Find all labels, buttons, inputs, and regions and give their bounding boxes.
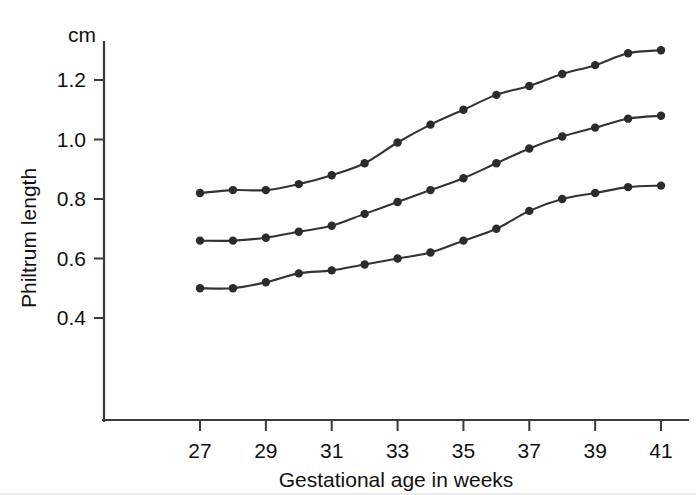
y-tick-label: 0.8 [57, 187, 86, 210]
y-tick-label: 1.2 [57, 68, 86, 91]
data-point-marker [393, 254, 401, 262]
data-point-marker [328, 171, 336, 179]
data-point-marker [525, 82, 533, 90]
x-axis-title: Gestational age in weeks [279, 468, 514, 491]
data-point-marker [459, 174, 467, 182]
data-point-marker [624, 183, 632, 191]
data-point-marker [229, 284, 237, 292]
data-point-marker [295, 228, 303, 236]
data-point-marker [426, 248, 434, 256]
data-point-marker [492, 159, 500, 167]
y-tick-label: 1.0 [57, 128, 86, 151]
data-point-marker [360, 159, 368, 167]
data-point-marker [558, 70, 566, 78]
x-tick-label: 31 [320, 439, 343, 462]
x-tick-label: 41 [649, 439, 672, 462]
data-point-marker [591, 123, 599, 131]
data-point-marker [262, 186, 270, 194]
data-point-marker [558, 195, 566, 203]
data-point-marker [426, 120, 434, 128]
data-point-marker [295, 269, 303, 277]
data-point-marker [459, 106, 467, 114]
data-point-marker [196, 189, 204, 197]
data-point-marker [262, 233, 270, 241]
y-axis-unit-label: cm [68, 23, 96, 46]
data-point-marker [492, 91, 500, 99]
data-point-marker [657, 46, 665, 54]
y-axis-title: Philtrum length [17, 168, 40, 308]
data-point-marker [196, 284, 204, 292]
data-point-marker [393, 198, 401, 206]
data-point-marker [229, 186, 237, 194]
data-point-marker [229, 236, 237, 244]
x-tick-label: 27 [188, 439, 211, 462]
data-point-marker [360, 260, 368, 268]
x-tick-label: 29 [254, 439, 277, 462]
data-point-marker [328, 266, 336, 274]
y-tick-label: 0.6 [57, 247, 86, 270]
data-point-marker [525, 144, 533, 152]
data-point-marker [657, 112, 665, 120]
philtrum-length-centile-chart: 0.40.60.81.01.2 2729313335373941 cm Phil… [0, 0, 696, 495]
data-point-marker [558, 132, 566, 140]
data-point-marker [393, 138, 401, 146]
data-point-marker [295, 180, 303, 188]
data-point-marker [525, 207, 533, 215]
data-point-marker [657, 181, 665, 189]
data-point-marker [591, 61, 599, 69]
data-point-marker [624, 114, 632, 122]
data-point-marker [492, 225, 500, 233]
data-point-marker [624, 49, 632, 57]
x-tick-label: 37 [518, 439, 541, 462]
data-point-marker [591, 189, 599, 197]
data-point-marker [196, 236, 204, 244]
data-point-marker [360, 210, 368, 218]
x-tick-label: 39 [583, 439, 606, 462]
x-tick-label: 35 [452, 439, 475, 462]
chart-figure: 0.40.60.81.01.2 2729313335373941 cm Phil… [0, 0, 696, 495]
data-point-marker [328, 222, 336, 230]
x-tick-label: 33 [386, 439, 409, 462]
data-point-marker [262, 278, 270, 286]
y-tick-label: 0.4 [57, 306, 87, 329]
data-point-marker [426, 186, 434, 194]
data-point-marker [459, 236, 467, 244]
